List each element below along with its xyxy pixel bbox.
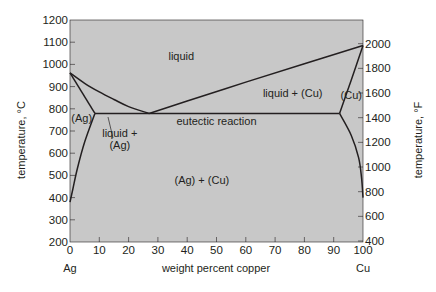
x-tick-label: 70: [269, 244, 282, 256]
x-tick-label: 10: [93, 244, 106, 256]
y-tick-label-right: 1800: [365, 62, 391, 74]
region-label: liquid + (Cu): [263, 87, 323, 99]
y-tick-label-left: 1000: [42, 58, 68, 70]
region-label: eutectic reaction: [176, 115, 256, 127]
y-tick-label-right: 800: [365, 186, 384, 198]
y-tick-label-left: 500: [49, 169, 68, 181]
y-axis-title-right: temperature, °F: [412, 101, 424, 178]
region-label: (Ag) + (Cu): [174, 174, 229, 186]
x-end-label-cu: Cu: [356, 262, 370, 274]
x-tick-label: 30: [152, 244, 165, 256]
y-axis-title-left: temperature, °C: [15, 101, 27, 179]
y-tick-label-left: 200: [49, 236, 68, 248]
region-label: (Ag): [109, 139, 130, 151]
x-tick-label: 50: [210, 244, 223, 256]
y-tick-label-left: 700: [49, 125, 68, 137]
y-tick-label-left: 400: [49, 192, 68, 204]
region-label: (Cu): [341, 89, 362, 101]
region-label: (Ag): [71, 112, 92, 124]
x-tick-label: 60: [239, 244, 252, 256]
y-tick-label-right: 1600: [365, 87, 391, 99]
region-label: liquid +: [102, 127, 137, 139]
y-tick-label-right: 1400: [365, 112, 391, 124]
y-tick-label-left: 300: [49, 214, 68, 226]
y-tick-label-right: 1000: [365, 161, 391, 173]
x-tick-label: 20: [122, 244, 135, 256]
region-label: liquid: [168, 50, 194, 62]
y-tick-label-left: 1200: [42, 14, 68, 26]
x-tick-label: 80: [298, 244, 311, 256]
x-tick-label: 90: [327, 244, 340, 256]
y-tick-label-right: 400: [365, 235, 384, 247]
y-tick-label-right: 1200: [365, 136, 391, 148]
phase-diagram-chart: 0102030405060708090100 20030040050060070…: [0, 0, 436, 292]
x-end-label-ag: Ag: [63, 262, 76, 274]
y-tick-label-left: 800: [49, 103, 68, 115]
x-axis-title: weight percent copper: [161, 262, 271, 274]
y-tick-label-left: 900: [49, 81, 68, 93]
y-tick-label-right: 600: [365, 210, 384, 222]
x-tick-label: 40: [181, 244, 194, 256]
y-tick-label-left: 600: [49, 147, 68, 159]
y-tick-label-right: 2000: [365, 38, 391, 50]
y-tick-label-left: 1100: [43, 36, 68, 48]
